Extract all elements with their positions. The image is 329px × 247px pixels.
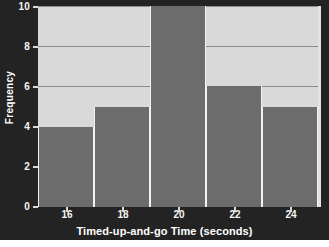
y-tick-label-8: 8 (6, 42, 30, 52)
x-tick-label-24: 24 (278, 210, 304, 220)
histogram-bar-1 (38, 127, 94, 207)
histogram-bar-3 (150, 6, 206, 207)
x-tick-label-22: 22 (222, 210, 248, 220)
y-tick-label-0: 0 (6, 202, 30, 212)
x-tick-label-16: 16 (54, 210, 80, 220)
plot-area (38, 6, 318, 207)
x-tick-label-20: 20 (166, 210, 192, 220)
x-tick-label-18: 18 (110, 210, 136, 220)
y-tick-label-10: 10 (6, 2, 30, 12)
histogram-figure: 10 8 6 4 2 0 16 18 20 22 24 Timed-up-and… (0, 0, 329, 247)
histogram-bar-2 (94, 107, 150, 208)
plot-right-edge (318, 6, 321, 207)
y-axis-label: Frequency (4, 62, 15, 134)
y-tick-label-2: 2 (6, 162, 30, 172)
histogram-bar-5 (262, 107, 318, 208)
x-axis-label: Timed-up-and-go Time (seconds) (0, 225, 329, 237)
histogram-bar-4 (206, 86, 262, 207)
